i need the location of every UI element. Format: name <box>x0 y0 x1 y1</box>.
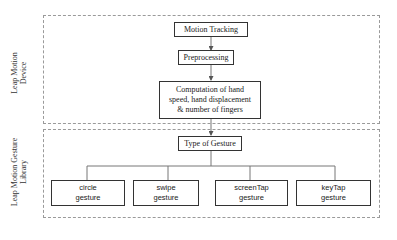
computation-line3: & number of fingers <box>177 105 243 115</box>
gesture-name: screenTap <box>234 183 269 193</box>
gesture-suffix: gesture <box>153 193 178 203</box>
motion-tracking-label: Motion Tracking <box>184 25 238 35</box>
computation-line2: speed, hand displacement <box>169 95 251 105</box>
motion-tracking-node: Motion Tracking <box>174 22 248 37</box>
gesture-name: swipe <box>156 183 175 193</box>
gesture-suffix: gesture <box>321 193 346 203</box>
library-label-line1: Leap Motion Gesture <box>10 128 19 216</box>
device-group-label: Leap Motion Device <box>10 43 30 103</box>
preprocessing-node: Preprocessing <box>178 50 234 65</box>
gesture-suffix: gesture <box>75 193 100 203</box>
device-label-line2: Device <box>19 43 28 103</box>
computation-line1: Computation of hand <box>176 85 244 95</box>
gesture-name: circle <box>79 183 97 193</box>
type-of-gesture-label: Type of Gesture <box>184 139 235 149</box>
computation-node: Computation of hand speed, hand displace… <box>159 81 261 119</box>
preprocessing-label: Preprocessing <box>184 53 229 63</box>
type-of-gesture-node: Type of Gesture <box>178 136 242 151</box>
device-label-line1: Leap Motion <box>10 43 19 103</box>
library-label-line2: Library <box>19 128 28 216</box>
gesture-suffix: gesture <box>239 193 264 203</box>
circle-gesture-node: circle gesture <box>51 180 125 206</box>
screentap-gesture-node: screenTap gesture <box>215 180 288 206</box>
swipe-gesture-node: swipe gesture <box>133 180 199 206</box>
keytap-gesture-node: keyTap gesture <box>296 180 371 206</box>
library-group-label: Leap Motion Gesture Library <box>10 128 30 216</box>
gesture-name: keyTap <box>322 183 346 193</box>
